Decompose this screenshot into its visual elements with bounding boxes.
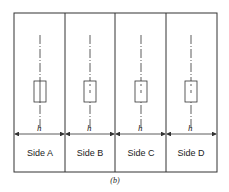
panel-side-d: h Side D	[167, 35, 216, 158]
four-sides-diagram: h Side A h Side B h Side C h Side D (b)	[0, 0, 229, 192]
panel-side-b: h Side B	[66, 35, 114, 158]
dimension-label-h: h	[188, 123, 193, 133]
dimension-label-h: h	[138, 123, 143, 133]
dimension-label-h: h	[37, 123, 42, 133]
dimension-label-h: h	[87, 123, 92, 133]
side-label: Side D	[177, 148, 205, 158]
side-label: Side B	[77, 148, 104, 158]
figure-caption: (b)	[110, 176, 120, 185]
panel-side-a: h Side A	[15, 35, 64, 158]
side-label: Side C	[127, 148, 155, 158]
side-label: Side A	[27, 148, 53, 158]
panel-side-c: h Side C	[116, 35, 165, 158]
